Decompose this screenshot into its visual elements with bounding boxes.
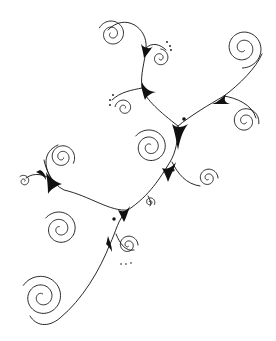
dot-cluster-top-3 bbox=[170, 49, 172, 51]
dot-cluster-bottom-2 bbox=[125, 263, 127, 265]
background bbox=[0, 0, 276, 341]
dot-single-center bbox=[182, 117, 186, 121]
dot-cluster-top-2 bbox=[169, 45, 171, 47]
dot-cluster-bottom-1 bbox=[120, 263, 122, 265]
swirl-illustration bbox=[0, 0, 276, 341]
dot-single-center-lower bbox=[171, 168, 174, 171]
dot-cluster-top-1 bbox=[166, 41, 168, 43]
dot-single-diagonal bbox=[112, 217, 115, 220]
dot-cluster-mid-left-2 bbox=[109, 99, 111, 101]
dot-cluster-mid-left-1 bbox=[112, 94, 114, 96]
dot-cluster-mid-left-3 bbox=[109, 104, 111, 106]
dot-cluster-bottom-3 bbox=[130, 262, 132, 264]
